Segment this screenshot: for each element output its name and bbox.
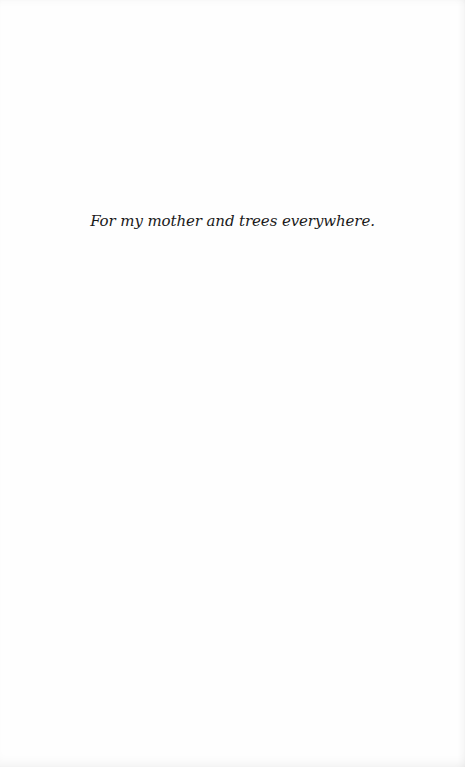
book-page: For my mother and trees everywhere. xyxy=(0,0,465,767)
dedication-text: For my mother and trees everywhere. xyxy=(0,211,465,231)
